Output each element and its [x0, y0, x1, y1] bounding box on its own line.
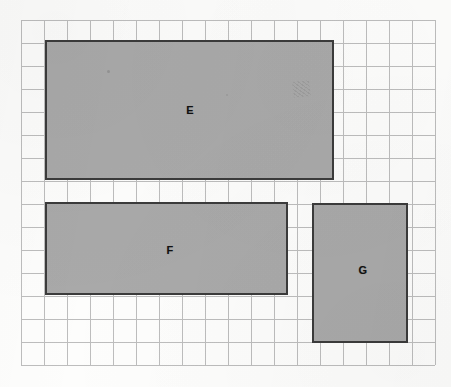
worksheet-canvas: EFG: [0, 0, 451, 387]
grid-line-vertical: [435, 20, 436, 365]
grid-line-vertical: [412, 20, 413, 365]
grid-line-horizontal: [21, 181, 435, 182]
shape-label-f: F: [167, 244, 174, 256]
grid-line-vertical: [21, 20, 22, 365]
shape-label-g: G: [359, 264, 368, 276]
grid-line-horizontal: [21, 20, 435, 21]
shape-label-e: E: [186, 104, 194, 116]
grid-line-horizontal: [21, 365, 435, 366]
